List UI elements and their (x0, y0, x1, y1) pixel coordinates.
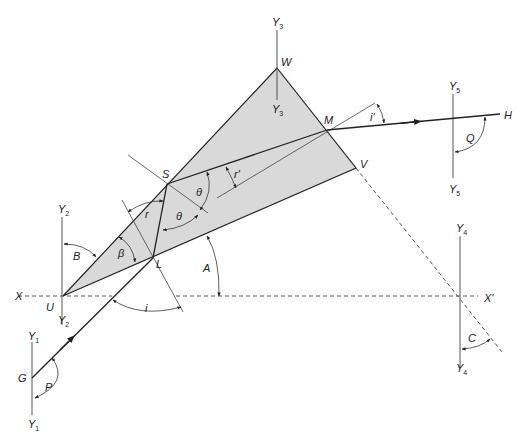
arc-i-prime (377, 104, 384, 123)
wv-extension (356, 168, 502, 352)
label-v: V (360, 158, 369, 170)
label-y5-bottom: Y5 (449, 183, 460, 197)
label-u: U (46, 301, 54, 313)
angle-label-i: i (145, 302, 148, 314)
prism-diagram: W M V S L U G H X X' Y1 Y1 Y2 Y2 Y3 Y3 Y… (0, 0, 527, 444)
label-y5-top: Y5 (449, 80, 460, 94)
label-y4-bottom: Y4 (456, 362, 467, 376)
label-y1-bottom: Y1 (28, 418, 39, 432)
arc-c (462, 339, 490, 349)
angle-label-beta: β (117, 247, 125, 259)
label-s: S (162, 168, 170, 180)
label-y2-top: Y2 (58, 203, 69, 217)
label-y3-top: Y3 (272, 16, 283, 30)
label-x: X (14, 290, 23, 302)
angle-label-i-prime: i' (370, 111, 375, 123)
angle-label-c: C (468, 332, 476, 344)
angle-label-b: B (73, 250, 80, 262)
label-y2-bottom: Y2 (58, 314, 69, 328)
label-x-prime: X' (483, 292, 494, 304)
label-w: W (281, 56, 293, 68)
label-l: L (156, 258, 162, 270)
label-y1-top: Y1 (28, 330, 39, 344)
label-g: G (18, 372, 27, 384)
angle-label-a: A (202, 262, 210, 274)
angle-label-q: Q (466, 132, 475, 144)
angle-label-theta-lower: θ (176, 210, 182, 222)
angle-label-r-prime: r' (234, 168, 241, 180)
label-y4-top: Y4 (456, 222, 467, 236)
ray-arrow-1 (60, 338, 72, 350)
angle-label-p: P (45, 381, 53, 393)
label-m: M (324, 114, 334, 126)
label-h: H (504, 109, 512, 121)
angle-label-theta-upper: θ (196, 186, 202, 198)
ray-arrow-2 (400, 122, 418, 124)
